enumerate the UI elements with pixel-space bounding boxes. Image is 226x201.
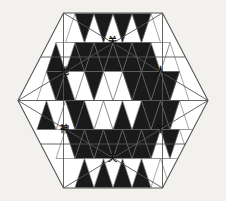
glyph-bottom: 天 — [103, 154, 121, 163]
hexagon-tiling-svg — [0, 0, 226, 201]
glyph-upper-right: 人 — [151, 67, 169, 76]
glyph-lower-left: 神 — [55, 125, 73, 134]
hexagon-tiling-figure: 关地人神丫天 — [0, 0, 226, 201]
glyph-top: 关 — [103, 37, 121, 46]
glyph-lower-right: 丫 — [151, 125, 169, 134]
glyph-upper-left: 地 — [55, 67, 73, 76]
